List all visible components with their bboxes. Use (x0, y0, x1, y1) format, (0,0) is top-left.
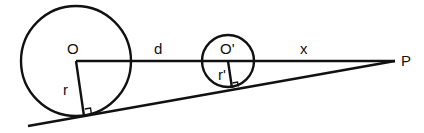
label-small-center: O' (220, 40, 235, 57)
label-big-radius: r (63, 81, 68, 98)
tangent-line (28, 61, 395, 126)
small-radius-line (228, 61, 232, 88)
label-distance-x: x (300, 40, 308, 57)
tangent-circles-diagram: O d O' x P r r' (0, 0, 424, 133)
label-small-radius: r' (218, 66, 226, 83)
label-point-p: P (401, 52, 411, 69)
label-distance-d: d (154, 40, 162, 57)
big-radius-line (76, 61, 84, 116)
label-big-center: O (67, 40, 79, 57)
